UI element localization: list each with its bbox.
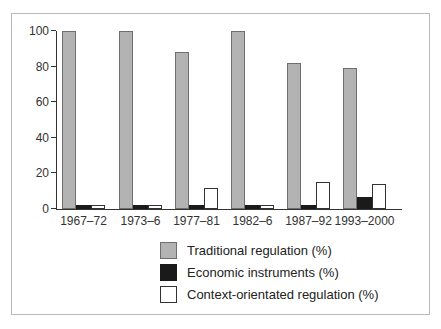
plot-area <box>56 31 402 210</box>
x-tick-label: 1987–92 <box>285 214 332 228</box>
y-tick-mark <box>51 137 56 138</box>
legend-item-economic-instruments: Economic instruments (%) <box>160 264 379 281</box>
legend-label-traditional-regulation: Traditional regulation (%) <box>187 243 332 258</box>
bar-traditional-regulation <box>62 31 76 209</box>
bar-traditional-regulation <box>231 31 245 209</box>
bar-economic-instruments <box>357 197 372 209</box>
x-tick-label: 1977–81 <box>173 214 220 228</box>
legend-swatch-traditional-regulation <box>160 242 177 259</box>
y-tick-mark <box>51 66 56 67</box>
bar-traditional-regulation <box>343 68 357 209</box>
y-tick-label: 40 <box>12 131 49 145</box>
bar-economic-instruments <box>189 205 204 209</box>
bar-traditional-regulation <box>287 63 301 209</box>
y-tick-label: 20 <box>12 166 49 180</box>
y-tick-label: 80 <box>12 60 49 74</box>
bar-traditional-regulation <box>119 31 133 209</box>
chart-frame: 020406080100 1967–721973–61977–811982–61… <box>11 13 430 315</box>
bar-group <box>119 31 162 209</box>
x-tick-label: 1982–6 <box>232 214 272 228</box>
legend-item-context-orientated-regulation: Context-orientated regulation (%) <box>160 286 379 303</box>
bar-group <box>343 68 386 209</box>
y-tick-mark <box>51 30 56 31</box>
x-axis-labels: 1967–721973–61977–811982–61987–921993–20… <box>12 214 429 230</box>
bar-group <box>287 63 330 209</box>
legend-swatch-economic-instruments <box>160 264 177 281</box>
y-tick-mark <box>51 101 56 102</box>
legend-label-context-orientated-regulation: Context-orientated regulation (%) <box>187 287 379 302</box>
bar-economic-instruments <box>133 205 148 209</box>
bar-context-orientated-regulation <box>148 205 162 209</box>
bar-group <box>62 31 105 209</box>
bar-economic-instruments <box>245 205 260 209</box>
bar-context-orientated-regulation <box>91 205 105 209</box>
bar-traditional-regulation <box>175 52 189 209</box>
legend-item-traditional-regulation: Traditional regulation (%) <box>160 242 379 259</box>
y-tick-label: 100 <box>12 24 49 38</box>
bar-context-orientated-regulation <box>204 188 218 209</box>
bar-group <box>175 52 218 209</box>
x-tick-label: 1967–72 <box>60 214 107 228</box>
bar-context-orientated-regulation <box>316 182 330 209</box>
bar-group <box>231 31 274 209</box>
legend: Traditional regulation (%)Economic instr… <box>160 242 379 308</box>
y-tick-mark <box>51 208 56 209</box>
bar-economic-instruments <box>76 205 91 209</box>
bar-economic-instruments <box>301 205 316 209</box>
bar-context-orientated-regulation <box>372 184 386 209</box>
x-tick-label: 1973–6 <box>120 214 160 228</box>
bar-context-orientated-regulation <box>260 205 274 209</box>
y-tick-mark <box>51 172 56 173</box>
x-tick-label: 1993–2000 <box>334 214 394 228</box>
y-tick-label: 60 <box>12 95 49 109</box>
legend-swatch-context-orientated-regulation <box>160 286 177 303</box>
y-axis-labels: 020406080100 <box>12 31 49 209</box>
legend-label-economic-instruments: Economic instruments (%) <box>187 265 339 280</box>
